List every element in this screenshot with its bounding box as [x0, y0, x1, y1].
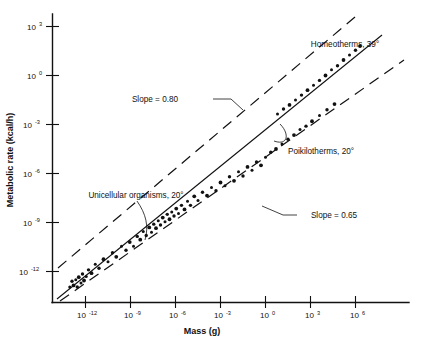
data-point — [170, 210, 173, 213]
data-point — [142, 230, 145, 233]
annotation-homeotherms: Homeotherms, 39° — [311, 40, 379, 49]
data-point — [269, 151, 272, 154]
data-point — [172, 214, 175, 217]
data-point — [159, 223, 162, 226]
data-point — [192, 194, 196, 198]
y-tick-labels: 10 3 10 0 10 -3 10 -6 10 -9 10 -12 — [19, 21, 42, 277]
x-tick-label: 10 -9 — [124, 310, 141, 320]
data-point — [174, 207, 178, 211]
y-tick-exponent: -3 — [35, 119, 40, 125]
data-point — [292, 133, 296, 137]
data-point — [72, 283, 76, 287]
data-point — [97, 267, 100, 270]
poikilotherms-leader — [274, 124, 286, 142]
y-tick-mantissa: 10 — [23, 170, 32, 179]
y-tick-label: 10 -6 — [23, 168, 40, 179]
x-tick-label: 10 3 — [305, 310, 320, 320]
data-point — [76, 285, 79, 288]
data-point — [168, 217, 172, 221]
x-axis-title: Mass (g) — [184, 326, 221, 336]
annotation-unicellular: Unicellular organisms, 20° — [88, 191, 183, 200]
annotation-slope-upper: Slope = 0.80 — [132, 95, 179, 104]
data-point — [90, 271, 94, 275]
data-point — [94, 263, 97, 266]
y-tick-mantissa: 10 — [23, 219, 32, 228]
data-point — [183, 208, 187, 212]
data-point — [70, 280, 73, 283]
data-point — [164, 220, 167, 223]
upper-bound-line — [58, 17, 355, 268]
x-tick-exponent: -3 — [226, 310, 231, 316]
data-point — [201, 191, 204, 194]
x-tick-exponent: 3 — [317, 310, 320, 316]
data-point — [219, 181, 223, 185]
y-tick-exponent: -9 — [35, 217, 40, 223]
data-point — [166, 213, 169, 216]
unicellular-leader — [137, 201, 147, 240]
data-point — [87, 268, 90, 271]
data-point — [251, 169, 254, 172]
data-point — [228, 175, 231, 178]
data-point — [237, 170, 240, 173]
y-tick-exponent: 3 — [39, 21, 42, 27]
x-tick-mantissa: 10 — [124, 311, 133, 320]
data-point — [85, 275, 88, 278]
x-tick-mantissa: 10 — [214, 311, 223, 320]
annotation-poikilotherms: Poikilotherms, 20° — [288, 147, 354, 156]
data-point — [120, 245, 123, 248]
data-point — [232, 179, 236, 183]
x-tick-mantissa: 10 — [305, 311, 314, 320]
data-point — [324, 74, 328, 78]
y-tick-mantissa: 10 — [27, 72, 36, 81]
x-tick-exponent: 0 — [272, 310, 275, 316]
x-tick-mantissa: 10 — [169, 311, 178, 320]
y-tick-mantissa: 10 — [27, 23, 36, 32]
data-point — [276, 112, 279, 115]
data-point — [241, 174, 244, 177]
data-point — [68, 286, 71, 289]
data-point — [214, 189, 217, 192]
data-point — [154, 226, 158, 230]
data-points-layer — [68, 44, 362, 289]
data-point — [77, 275, 81, 279]
data-point — [152, 222, 155, 225]
regression-line — [57, 35, 382, 299]
data-point — [342, 58, 346, 62]
data-point — [299, 128, 302, 131]
x-tick-mantissa: 10 — [350, 311, 359, 320]
x-tick-label: 10 -6 — [169, 310, 186, 320]
data-point — [161, 216, 165, 220]
data-point — [128, 240, 132, 244]
x-tick-label: 10 -3 — [214, 310, 231, 320]
data-point — [157, 219, 160, 222]
data-point — [224, 184, 227, 187]
data-point — [138, 238, 142, 242]
lower-bound-line — [60, 60, 404, 301]
annotation-texts: Slope = 0.80 Slope = 0.65 Homeotherms, 3… — [88, 40, 379, 220]
data-point — [111, 251, 114, 254]
data-point — [318, 79, 321, 82]
data-point — [189, 204, 192, 207]
data-point — [186, 200, 189, 203]
data-point — [310, 119, 314, 123]
data-point — [325, 108, 328, 111]
x-tick-mantissa: 10 — [260, 311, 269, 320]
slope-lower-leader — [262, 206, 297, 215]
data-point — [132, 245, 135, 248]
data-point — [150, 231, 153, 234]
data-point — [82, 279, 86, 283]
data-point — [246, 165, 250, 169]
data-point — [312, 84, 315, 87]
y-tick-mantissa: 10 — [19, 268, 28, 277]
data-point — [136, 235, 139, 238]
y-tick-exponent: 0 — [39, 70, 42, 76]
x-tick-mantissa: 10 — [77, 311, 86, 320]
data-point — [348, 54, 351, 57]
y-axis-title: Metabolic rate (kcal/h) — [5, 113, 15, 208]
data-point — [147, 226, 151, 230]
y-tick-label: 10 3 — [27, 21, 42, 32]
data-point — [304, 124, 307, 127]
data-point — [286, 138, 289, 141]
data-point — [259, 163, 263, 167]
data-point — [300, 93, 303, 96]
